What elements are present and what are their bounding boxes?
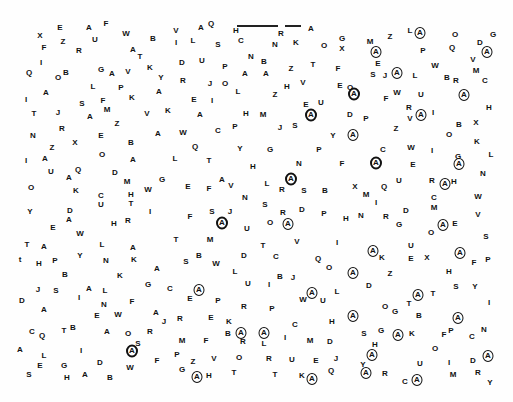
letter-p: P <box>215 297 220 305</box>
letter-u: U <box>48 168 54 176</box>
letter-b: B <box>261 58 267 66</box>
letter-o: O <box>55 74 61 82</box>
letter-t: T <box>138 53 143 61</box>
letter-f: F <box>207 185 212 193</box>
circled-letter-a: A <box>219 219 225 227</box>
letter-i: I <box>488 299 490 307</box>
rule-line <box>237 25 259 27</box>
letter-v: V <box>470 56 475 64</box>
letter-a: A <box>242 70 248 78</box>
circled-letter-a: A <box>417 29 423 37</box>
letter-u: U <box>418 91 424 99</box>
letter-i: I <box>336 239 338 247</box>
letter-l: L <box>233 268 238 276</box>
letter-b: B <box>322 187 328 195</box>
letter-h: H <box>343 215 349 223</box>
letter-b: B <box>416 312 422 320</box>
letter-c: C <box>273 253 279 261</box>
letter-b: B <box>62 271 68 279</box>
letter-h: H <box>111 220 117 228</box>
letter-h: H <box>329 318 335 326</box>
circled-letter-a: A <box>308 111 314 119</box>
letter-i: I <box>40 59 42 67</box>
circled-letter-a: A <box>350 312 356 320</box>
letter-l: L <box>408 27 413 35</box>
letter-o: O <box>382 303 388 311</box>
circled-letter-a: A <box>373 48 379 56</box>
letter-s: S <box>483 233 488 241</box>
letter-b: B <box>128 139 134 147</box>
letter-cancellation-sheet: XEAFFZURWBATIQOBGAVKYALPAKSFMAZVKITJNREA… <box>0 0 513 402</box>
letter-u: U <box>98 201 104 209</box>
letter-f: F <box>42 44 47 52</box>
letter-r: R <box>180 77 186 85</box>
letter-h: H <box>233 27 239 35</box>
letter-i: I <box>78 294 80 302</box>
letter-n: N <box>481 326 487 334</box>
letter-u: U <box>320 297 326 305</box>
letter-m: M <box>450 371 457 379</box>
letter-e: E <box>98 132 103 140</box>
letter-y: Y <box>237 145 242 153</box>
circled-letter-a: A <box>350 269 356 277</box>
letter-b: B <box>456 121 462 129</box>
letter-m: M <box>207 236 214 244</box>
letter-j: J <box>278 124 282 132</box>
letter-a: A <box>155 130 161 138</box>
letter-c: C <box>167 285 173 293</box>
letter-d: D <box>299 206 305 214</box>
letter-r: R <box>382 370 388 378</box>
letter-g: G <box>339 35 345 43</box>
letter-f: F <box>336 65 341 73</box>
letter-q: Q <box>192 143 198 151</box>
letter-p: P <box>118 84 123 92</box>
letter-i: I <box>25 96 27 104</box>
letter-z: Z <box>50 144 55 152</box>
letter-s: S <box>262 201 267 209</box>
letter-z: Z <box>289 65 294 73</box>
letter-b: B <box>63 69 69 77</box>
letter-t: T <box>407 300 412 308</box>
letter-c: C <box>402 378 408 386</box>
letter-q: Q <box>75 166 81 174</box>
letter-e: E <box>37 362 42 370</box>
circled-letter-a: A <box>442 180 448 188</box>
letter-r: R <box>266 355 272 363</box>
letter-k: K <box>129 94 135 102</box>
letter-e: E <box>313 357 318 365</box>
letter-o: O <box>99 151 105 159</box>
letter-l: L <box>42 352 47 360</box>
letter-i: I <box>175 39 177 47</box>
circled-letter-a: A <box>370 247 376 255</box>
letter-b: B <box>277 273 283 281</box>
letter-b: B <box>225 330 231 338</box>
letter-s: S <box>370 71 375 79</box>
letter-l: L <box>262 340 267 348</box>
letter-u: U <box>92 36 98 44</box>
circled-letter-a: A <box>369 351 375 359</box>
letter-i: I <box>432 109 434 117</box>
letter-m: M <box>260 111 267 119</box>
letter-u: U <box>417 360 423 368</box>
letter-s: S <box>26 371 31 379</box>
letter-p: P <box>222 63 227 71</box>
letter-m: M <box>124 178 131 186</box>
letter-i: I <box>284 334 286 342</box>
letter-q: Q <box>39 332 45 340</box>
letter-r: R <box>125 217 131 225</box>
letter-y: Y <box>158 74 163 82</box>
letter-r: R <box>453 77 459 85</box>
letter-d: D <box>112 169 118 177</box>
letter-u: U <box>289 356 295 364</box>
letter-s: S <box>301 187 306 195</box>
letter-h: H <box>372 341 378 349</box>
letter-g: G <box>396 221 402 229</box>
letter-e: E <box>375 60 380 68</box>
letter-i: I <box>25 157 27 165</box>
letter-h: H <box>284 83 290 91</box>
rule-line <box>285 25 301 27</box>
letter-t: T <box>25 241 30 249</box>
letter-h: H <box>451 178 457 186</box>
letter-b: B <box>150 35 156 43</box>
letter-h: H <box>36 260 42 268</box>
